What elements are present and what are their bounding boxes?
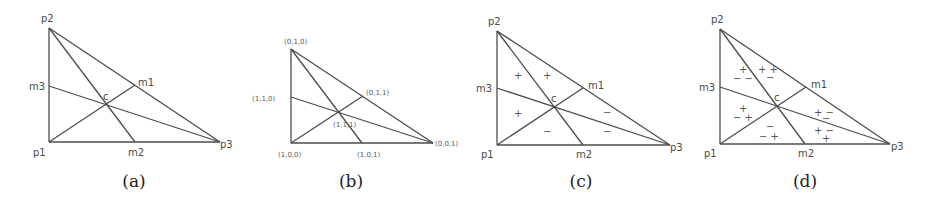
label-m2: (1,0,1) <box>357 151 381 159</box>
label-m1: m1 <box>138 77 154 88</box>
label-p2: p2 <box>488 16 501 27</box>
sign-region-p3-m1-bottom: − <box>822 113 830 124</box>
label-m3: m3 <box>699 82 715 93</box>
panel-c: p2 m3 m1 c p1 m2 p3 + + + − − − (c) <box>476 16 683 191</box>
label-m2: m2 <box>128 147 144 158</box>
sign-region-p1-m3-bottom: − + <box>733 112 753 123</box>
label-p1: p1 <box>481 149 494 160</box>
sign-region-p2-m3: + <box>514 70 522 81</box>
label-p1: p1 <box>33 147 46 158</box>
label-p3: p3 <box>220 139 233 150</box>
caption-b: (b) <box>339 171 363 191</box>
sign-region-p2-m3-bottom: − − <box>733 73 753 84</box>
label-c: (1,1,1) <box>333 121 357 129</box>
sign-region-p2-m1-bottom: − <box>766 72 774 83</box>
label-m2: m2 <box>576 149 592 160</box>
label-m1: (0,1,1) <box>366 89 390 97</box>
label-p2: (0,1,0) <box>284 38 308 46</box>
label-m1: m1 <box>811 79 827 90</box>
label-c: c <box>103 91 109 102</box>
panel-d: p2 m3 m1 c p1 m2 p3 + − − + + − + − + − … <box>699 14 904 191</box>
panel-a: p2 m3 m1 c p1 m2 p3 (a) <box>29 13 233 191</box>
label-m3: m3 <box>29 81 45 92</box>
label-c: c <box>774 92 780 103</box>
label-m1: m1 <box>588 80 604 91</box>
label-p1: p1 <box>704 148 717 159</box>
label-p3: p3 <box>670 142 683 153</box>
sign-region-p1-m2: − <box>543 126 551 137</box>
caption-a: (a) <box>122 171 145 191</box>
caption-c: (c) <box>570 171 593 191</box>
label-p3: p3 <box>891 141 904 152</box>
sign-region-p3-m1: − <box>603 107 611 118</box>
label-p1: (1,0,0) <box>278 151 302 159</box>
sign-region-p3-m2-bottom: + <box>822 133 830 144</box>
label-m2: m2 <box>798 148 814 159</box>
sign-region-p3-m2: − <box>603 126 611 137</box>
sign-region-p2-m1: + <box>543 70 551 81</box>
label-p2: p2 <box>711 14 724 25</box>
label-m3: (1,1,0) <box>252 95 276 103</box>
label-m3: m3 <box>476 83 492 94</box>
label-p3: (0,0,1) <box>435 140 459 148</box>
label-c: c <box>551 93 557 104</box>
label-p2: p2 <box>41 13 54 24</box>
sign-region-p1-m2-bottom: − + <box>759 131 779 142</box>
figure-triangle-subdivisions: p2 m3 m1 c p1 m2 p3 (a) (0,1,0) (1,1,0) … <box>0 0 931 212</box>
panel-b: (0,1,0) (1,1,0) (0,1,1) (1,1,1) (1,0,0) … <box>252 38 459 191</box>
caption-d: (d) <box>793 171 817 191</box>
sign-region-p1-m3: + <box>514 108 522 119</box>
